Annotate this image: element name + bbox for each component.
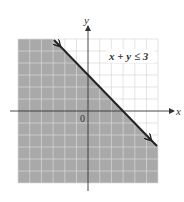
inequality-graph: x y 0 x + y ≤ 3	[0, 0, 184, 202]
x-axis-label: x	[175, 105, 181, 117]
inequality-annotation: x + y ≤ 3	[108, 50, 149, 62]
origin-label: 0	[80, 113, 85, 124]
y-axis-label: y	[83, 14, 89, 26]
